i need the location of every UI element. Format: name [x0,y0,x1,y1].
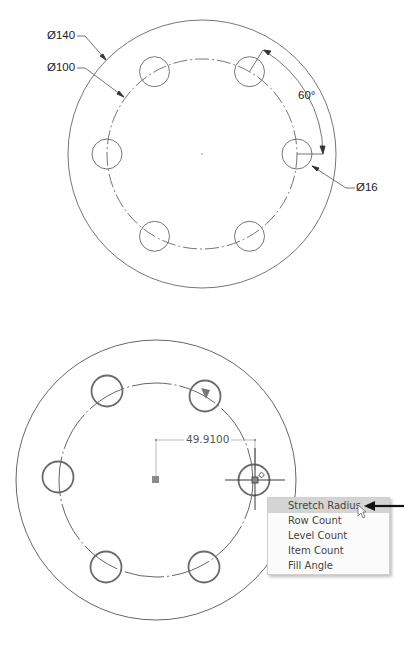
angle-label: 60° [298,89,315,101]
leader-100 [77,68,124,97]
outer-circle-top [68,20,336,288]
arrowhead-16 [312,166,319,171]
menu-item-fill-angle[interactable]: Fill Angle [268,558,389,573]
angle-arc [263,50,323,153]
square-grip-icon[interactable] [152,476,159,483]
outer-diameter-label: Ø140 [47,29,75,41]
arrowhead-100 [117,91,124,97]
bolt-circle-top [107,59,297,249]
arrowhead-140 [100,54,106,60]
radius-dimension-value[interactable]: 49.9100 [184,433,231,445]
hole-diameter-label: Ø16 [356,181,378,193]
menu-item-row-count[interactable]: Row Count [268,513,389,528]
callout-arrow-icon [364,500,406,512]
menu-item-item-count[interactable]: Item Count [268,543,389,558]
radius-dimension [156,440,255,476]
center-point-top [201,153,202,154]
ext-line-60 [250,50,264,72]
dim-endpoint-right [254,439,256,441]
triangle-grip-icon[interactable] [201,388,210,399]
top-drawing [68,20,355,288]
bolt-circle-diameter-label: Ø100 [47,61,75,73]
bottom-drawing [16,340,296,620]
hole-bottom-lower-right[interactable] [189,552,220,583]
dim-endpoint-left [155,439,157,441]
hole-bottom-left[interactable] [43,462,74,493]
hole-bottom-lower-left[interactable] [91,552,122,583]
menu-item-level-count[interactable]: Level Count [268,528,389,543]
arrowhead-angle-bottom [320,146,325,154]
